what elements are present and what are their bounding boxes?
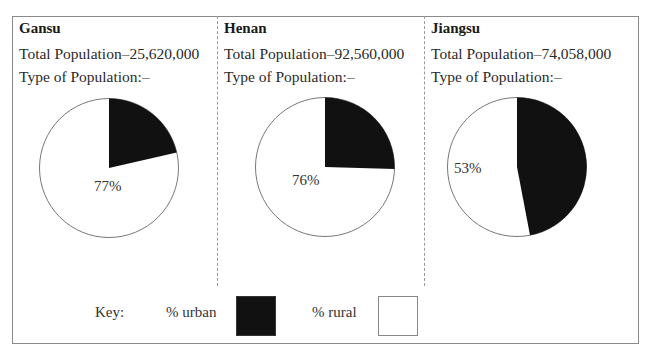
pie-chart-henan <box>254 95 396 239</box>
key-urban-label: % urban <box>166 304 216 321</box>
population-type-label: Type of Population:– <box>224 68 355 86</box>
total-population: Total Population–25,620,000 <box>19 45 199 63</box>
pie-label: 77% <box>94 178 122 195</box>
total-population: Total Population–74,058,000 <box>431 45 611 63</box>
rural-swatch-icon <box>378 296 418 336</box>
total-population: Total Population–92,560,000 <box>224 45 404 63</box>
region-name: Gansu <box>19 20 61 37</box>
region-name: Jiangsu <box>431 20 480 37</box>
key-title: Key: <box>95 304 124 321</box>
key-rural-label: % rural <box>312 304 357 321</box>
pie-label: 76% <box>292 172 320 189</box>
population-type-label: Type of Population:– <box>431 68 562 86</box>
urban-slice <box>517 97 587 235</box>
population-type-label: Type of Population:– <box>19 68 150 86</box>
urban-slice <box>325 97 395 168</box>
pie-label: 53% <box>454 160 482 177</box>
region-name: Henan <box>224 20 267 37</box>
urban-swatch-icon <box>236 296 276 336</box>
pie-chart-gansu <box>38 96 180 240</box>
